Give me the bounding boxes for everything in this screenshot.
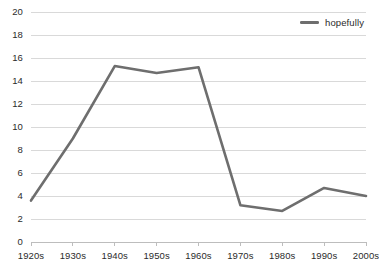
y-tick-label: 10 — [0, 122, 23, 132]
y-tick-label: 18 — [0, 30, 23, 40]
y-tick-label: 2 — [0, 214, 23, 224]
x-tick-label: 1990s — [311, 251, 337, 261]
y-tick-label: 16 — [0, 53, 23, 63]
x-tick-mark-group — [31, 242, 366, 246]
x-tick-label: 2000s — [353, 251, 379, 261]
chart-legend: hopefully — [300, 18, 364, 28]
series-group — [31, 66, 366, 211]
y-tick-label: 0 — [0, 237, 23, 247]
y-tick-label: 6 — [0, 168, 23, 178]
y-tick-label: 12 — [0, 99, 23, 109]
y-tick-label: 4 — [0, 191, 23, 201]
legend-line-swatch-icon — [300, 21, 319, 24]
x-tick-label: 1950s — [143, 251, 169, 261]
legend-label: hopefully — [325, 18, 364, 28]
x-tick-label: 1970s — [227, 251, 253, 261]
y-tick-label: 20 — [0, 7, 23, 17]
y-tick-label: 14 — [0, 76, 23, 86]
gridline-group — [31, 12, 366, 242]
x-tick-label: 1930s — [60, 251, 86, 261]
series-line-0 — [31, 66, 366, 211]
x-tick-label: 1940s — [102, 251, 128, 261]
y-tick-label: 8 — [0, 145, 23, 155]
x-tick-label: 1920s — [18, 251, 44, 261]
x-tick-label: 1960s — [185, 251, 211, 261]
x-tick-label: 1980s — [269, 251, 295, 261]
